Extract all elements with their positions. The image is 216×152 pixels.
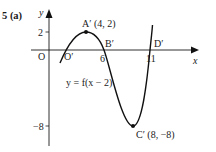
- point-label-c-prime: C′ (8, −8): [136, 129, 175, 141]
- x-axis-arrow-icon: [191, 47, 199, 54]
- x-axis-label: x: [192, 55, 198, 66]
- x-tick-label-11: 11: [146, 53, 156, 64]
- point-label-d-prime: D′: [154, 38, 163, 49]
- graph-figure: 5 (a) x y O 2 −8 O′ A′ (4, 2) B′ C′ (8, …: [0, 0, 216, 152]
- origin-label: O: [38, 51, 45, 62]
- y-tick-label-2: 2: [38, 27, 43, 38]
- question-label: 5 (a): [2, 10, 23, 22]
- minimum-point-marker: [131, 124, 135, 128]
- point-label-a-prime: A′ (4, 2): [82, 18, 116, 30]
- maximum-point-marker: [84, 30, 88, 34]
- curve-label: y = f(x − 2): [66, 77, 112, 89]
- y-axis-arrow-icon: [46, 9, 53, 18]
- point-label-o-prime: O′: [64, 51, 73, 62]
- x-tick-label-6: 6: [100, 53, 105, 64]
- y-tick-label-neg8: −8: [33, 121, 44, 132]
- point-label-b-prime: B′: [105, 38, 114, 49]
- y-axis-label: y: [38, 7, 44, 18]
